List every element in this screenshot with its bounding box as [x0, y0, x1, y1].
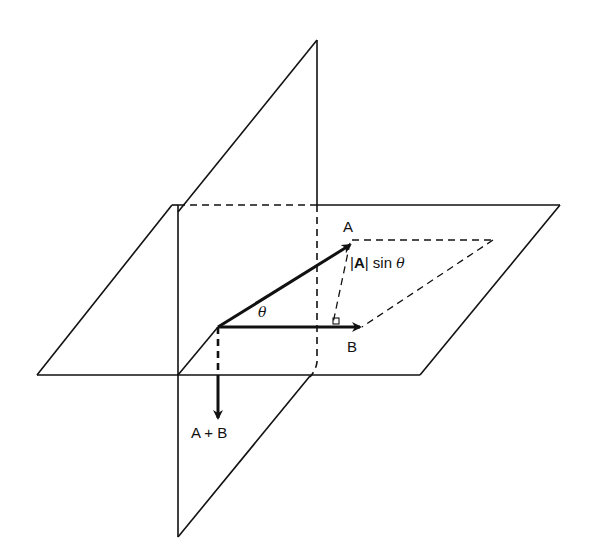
vertical-plane-diagonal-mid [178, 327, 218, 375]
label-vector-a: A [343, 218, 353, 235]
label-magnitude-a-sin-theta: |A| sin θ [350, 254, 405, 271]
horizontal-plane-right-edge [420, 205, 560, 375]
vertical-plane [178, 40, 317, 537]
horizontal-plane [37, 205, 560, 375]
vector-a-arrow [218, 245, 350, 327]
vertical-plane-diagonal-upper [178, 40, 317, 212]
label-theta: θ [258, 304, 266, 320]
magnitude-bar-right: | [365, 254, 369, 271]
vectors [218, 245, 360, 418]
vertical-plane-right-edge-hidden [310, 205, 317, 377]
sin-theta: θ [396, 255, 404, 271]
vertical-plane-diagonal-lower [178, 376, 310, 537]
label-a-plus-b: A + B [191, 424, 227, 441]
sin-text: sin [373, 254, 392, 271]
vector-diagram [0, 0, 592, 556]
horizontal-plane-left-edge [37, 205, 172, 375]
label-vector-b: B [347, 338, 357, 355]
magnitude-a-letter: A [354, 254, 365, 271]
